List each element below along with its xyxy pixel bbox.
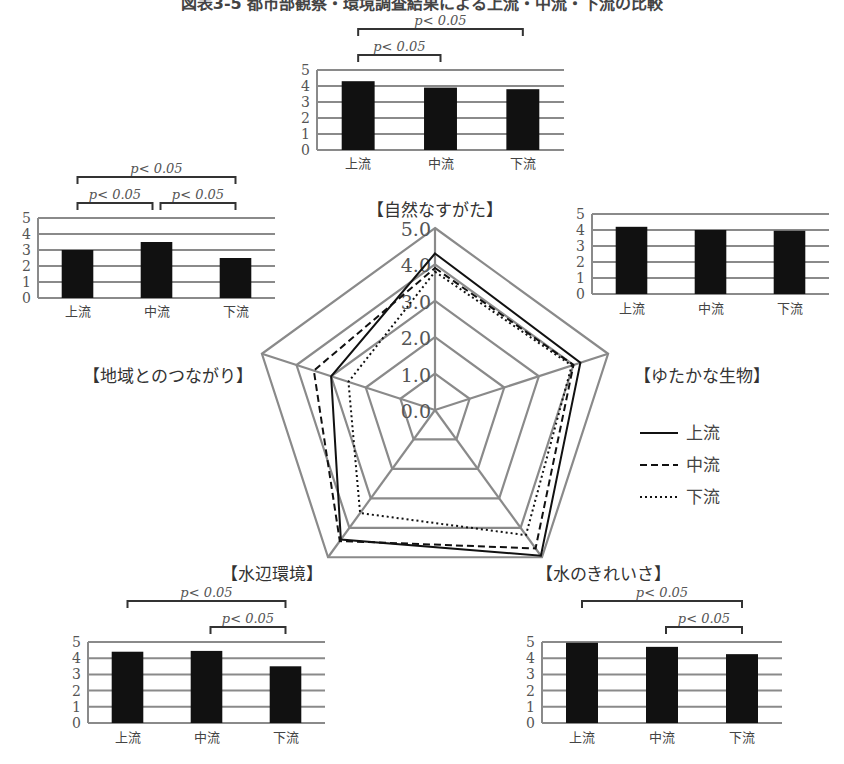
bar-xtick-label: 中流 <box>698 301 724 316</box>
bar-chart-shizen: 012345上流中流下流p< 0.05p< 0.05 <box>301 13 564 171</box>
radar-series-dotted <box>348 272 571 535</box>
significance-bracket <box>161 203 236 210</box>
significance-bracket <box>582 601 742 608</box>
bar-xtick-label: 下流 <box>223 304 249 319</box>
figure-canvas: 0.01.02.03.04.05.0【自然なすがた】【ゆたかな生物】【水のきれい… <box>0 0 844 764</box>
bar <box>726 654 758 723</box>
bar <box>220 258 252 298</box>
bar <box>695 230 727 294</box>
bar-xtick-label: 中流 <box>649 730 675 745</box>
bar-ytick-label: 2 <box>22 258 31 274</box>
bar-xtick-label: 上流 <box>115 730 141 745</box>
significance-bracket <box>128 601 286 608</box>
bar-ytick-label: 1 <box>72 699 81 715</box>
significance-label: p< 0.05 <box>130 161 182 176</box>
radar-axis-label: 【地域とのつながり】 <box>83 366 253 386</box>
bar <box>566 643 598 723</box>
bar-ytick-label: 2 <box>72 683 81 699</box>
bar-ytick-label: 3 <box>301 94 310 110</box>
significance-label: p< 0.05 <box>172 187 224 202</box>
bar-ytick-label: 4 <box>72 650 81 666</box>
radar-tick-label: 3.0 <box>401 291 431 313</box>
significance-bracket <box>78 203 153 210</box>
bar-xtick-label: 上流 <box>345 156 371 171</box>
significance-label: p< 0.05 <box>222 611 274 626</box>
significance-bracket <box>666 627 742 634</box>
radar-tick-label: 0.0 <box>401 400 431 422</box>
significance-bracket <box>358 55 440 62</box>
bar <box>270 666 302 723</box>
bar <box>774 231 806 294</box>
bar-ytick-label: 4 <box>22 226 31 242</box>
bar <box>424 88 457 150</box>
bar-xtick-label: 上流 <box>65 304 91 319</box>
bar <box>141 242 173 298</box>
bar-ytick-label: 3 <box>22 242 31 258</box>
radar-series-solid <box>331 253 580 555</box>
radar-axis-label: 【自然なすがた】 <box>367 200 503 220</box>
bar-xtick-label: 下流 <box>510 156 536 171</box>
bar-ytick-label: 3 <box>72 666 81 682</box>
significance-label: p< 0.05 <box>373 39 425 54</box>
bar-ytick-label: 2 <box>526 683 535 699</box>
bar <box>646 647 678 723</box>
bar-ytick-label: 2 <box>576 254 585 270</box>
bar-xtick-label: 上流 <box>619 301 645 316</box>
bar-xtick-label: 上流 <box>569 730 595 745</box>
significance-label: p< 0.05 <box>180 585 232 600</box>
bar-ytick-label: 3 <box>576 238 585 254</box>
bar <box>506 89 539 150</box>
bar-ytick-label: 0 <box>301 142 310 158</box>
bar-ytick-label: 0 <box>72 715 81 731</box>
legend-label: 下流 <box>686 487 720 507</box>
radar-axis-label: 【水辺環境】 <box>221 564 323 584</box>
radar-axis-label: 【水のきれいさ】 <box>536 564 671 584</box>
bar-chart-mizube: 012345上流中流下流p< 0.05p< 0.05 <box>72 585 325 745</box>
bar <box>62 250 94 298</box>
bar-ytick-label: 3 <box>526 666 535 682</box>
bar-ytick-label: 5 <box>301 62 310 78</box>
significance-label: p< 0.05 <box>414 13 466 28</box>
radar-tick-label: 4.0 <box>401 254 431 276</box>
bar <box>616 227 648 294</box>
bar-chart-chiiki: 012345上流中流下流p< 0.05p< 0.05p< 0.05 <box>22 161 275 319</box>
bar-ytick-label: 5 <box>72 634 81 650</box>
significance-bracket <box>211 627 286 634</box>
radar-spoke <box>435 354 608 410</box>
radar-axis-label: 【ゆたかな生物】 <box>634 366 770 386</box>
bar-ytick-label: 0 <box>576 286 585 302</box>
bar-ytick-label: 1 <box>576 270 585 286</box>
significance-label: p< 0.05 <box>636 585 688 600</box>
bar-chart-kirei: 012345上流中流下流p< 0.05p< 0.05 <box>526 585 782 745</box>
bar <box>112 652 144 723</box>
bar-ytick-label: 5 <box>526 634 535 650</box>
bar-ytick-label: 4 <box>301 78 310 94</box>
significance-label: p< 0.05 <box>678 611 730 626</box>
legend-label: 上流 <box>686 423 720 443</box>
bar-ytick-label: 2 <box>301 110 310 126</box>
radar-spoke <box>328 410 435 557</box>
bar <box>191 651 223 723</box>
bar-xtick-label: 中流 <box>194 730 220 745</box>
bar-ytick-label: 1 <box>526 699 535 715</box>
bar-ytick-label: 5 <box>576 206 585 222</box>
bar <box>342 81 375 150</box>
bar-ytick-label: 0 <box>22 290 31 306</box>
bar-ytick-label: 0 <box>526 715 535 731</box>
bar-xtick-label: 下流 <box>273 730 299 745</box>
bar-xtick-label: 下流 <box>777 301 803 316</box>
significance-label: p< 0.05 <box>89 187 141 202</box>
bar-ytick-label: 4 <box>576 222 585 238</box>
bar-chart-seibutsu: 012345上流中流下流 <box>576 206 829 316</box>
legend-label: 中流 <box>686 455 720 475</box>
radar-tick-label: 1.0 <box>401 364 431 386</box>
significance-bracket <box>78 177 236 184</box>
bar-ytick-label: 5 <box>22 210 31 226</box>
radar-chart: 0.01.02.03.04.05.0【自然なすがた】【ゆたかな生物】【水のきれい… <box>83 200 770 584</box>
bar-xtick-label: 下流 <box>729 730 755 745</box>
radar-tick-label: 5.0 <box>401 218 431 240</box>
bar-ytick-label: 1 <box>22 274 31 290</box>
bar-xtick-label: 中流 <box>428 156 454 171</box>
bar-ytick-label: 4 <box>526 650 535 666</box>
bar-ytick-label: 1 <box>301 126 310 142</box>
